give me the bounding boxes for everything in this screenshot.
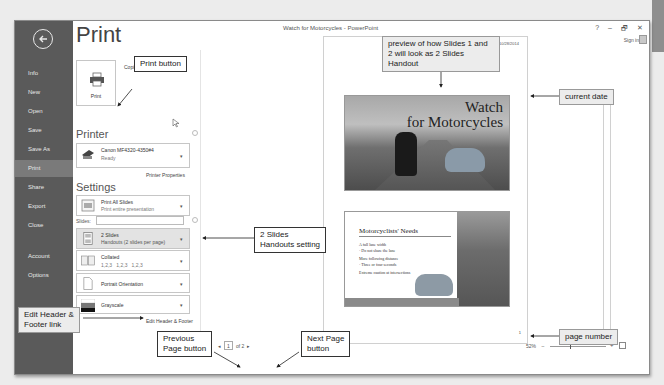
color-dropdown[interactable]: Grayscale ▾ bbox=[76, 295, 190, 314]
slide-1-title: Watch for Motorcycles bbox=[407, 100, 503, 130]
layout-subtitle: Handouts (2 slides per page) bbox=[101, 239, 165, 245]
page-navigator: ◂ 1 of 2 ▸ bbox=[218, 341, 250, 350]
printer-dropdown[interactable]: Canon MF4320-4350#4 Ready ▾ bbox=[76, 143, 190, 168]
zoom-out-button[interactable]: – bbox=[541, 343, 544, 349]
window-title: Watch for Motorcycles - PowerPoint bbox=[283, 25, 378, 31]
sidebar-item-open[interactable]: Open bbox=[15, 103, 73, 120]
avatar[interactable] bbox=[639, 35, 647, 44]
next-page-button[interactable]: ▸ bbox=[247, 343, 250, 349]
callout-line: Page button bbox=[163, 344, 206, 354]
minimize-icon[interactable]: – bbox=[608, 24, 612, 35]
print-range-title: Print All Slides bbox=[101, 199, 133, 205]
callout-line: 2 Slides bbox=[260, 230, 320, 240]
layout-title: 2 Slides bbox=[101, 232, 119, 238]
print-button-label: Print bbox=[77, 93, 115, 99]
callout-line: Next Page bbox=[307, 334, 344, 344]
current-page-input[interactable]: 1 bbox=[224, 341, 233, 350]
slide-2-bullet: · Three or four seconds bbox=[359, 262, 396, 267]
printer-heading: Printer bbox=[76, 128, 108, 140]
sidebar-item-save[interactable]: Save bbox=[15, 122, 73, 139]
slide-2-bullet: More following distance bbox=[359, 256, 398, 261]
sidebar-item-info[interactable]: Info bbox=[15, 65, 73, 82]
slide-1-title-line-1: Watch bbox=[407, 100, 503, 115]
portrait-page-icon bbox=[83, 277, 93, 290]
zoom-to-page-icon[interactable] bbox=[619, 342, 626, 349]
zoom-percent[interactable]: 52% bbox=[526, 343, 536, 349]
cartoon-car-image bbox=[415, 274, 453, 296]
slides-icon bbox=[81, 199, 95, 212]
sidebar-item-export[interactable]: Export bbox=[15, 198, 73, 215]
edit-header-callout: Edit Header & Footer link bbox=[18, 307, 80, 333]
sidebar-item-new[interactable]: New bbox=[15, 84, 73, 101]
info-icon[interactable] bbox=[192, 130, 198, 136]
callout-line: Previous bbox=[163, 334, 206, 344]
collated-icon bbox=[81, 255, 95, 268]
chevron-down-icon: ▾ bbox=[180, 258, 183, 264]
sidebar-item-close[interactable]: Close bbox=[15, 217, 73, 234]
callout-line: Footer link bbox=[24, 320, 74, 330]
help-icon[interactable]: ? bbox=[595, 24, 599, 35]
sidebar-item-options[interactable]: Options bbox=[15, 267, 73, 284]
preview-callout: preview of how Slides 1 and 2 will look … bbox=[382, 36, 500, 72]
page-count-label: of 2 bbox=[236, 343, 244, 349]
color-label: Grayscale bbox=[101, 302, 124, 308]
cartoon-car-image bbox=[445, 148, 485, 172]
panel-divider bbox=[200, 50, 201, 350]
handout-layout-dropdown[interactable]: 2 Slides Handouts (2 slides per page) ▾ bbox=[76, 228, 190, 249]
slide-footer-bar bbox=[345, 298, 459, 306]
print-range-dropdown[interactable]: Print All Slides Print entire presentati… bbox=[76, 195, 190, 216]
sidebar-item-share[interactable]: Share bbox=[15, 179, 73, 196]
slides-label: Slides: bbox=[76, 218, 91, 224]
page-number-callout: page number bbox=[559, 329, 618, 345]
sidebar-item-account[interactable]: Account bbox=[15, 248, 73, 265]
preview-date: 10/28/2014 bbox=[499, 41, 519, 46]
print-button[interactable]: Print bbox=[76, 60, 116, 106]
info-icon[interactable] bbox=[192, 217, 198, 223]
slide-2-bullet: A full lane width bbox=[359, 242, 386, 247]
sidebar-item-save-as[interactable]: Save As bbox=[15, 141, 73, 158]
print-button-callout: Print button bbox=[134, 56, 187, 72]
preview-page-number: 1 bbox=[519, 330, 521, 335]
collation-title: Collated bbox=[101, 254, 119, 260]
collation-dropdown[interactable]: Collated 1,2,3 1,2,3 1,2,3 ▾ bbox=[76, 250, 190, 271]
chevron-down-icon: ▾ bbox=[180, 203, 183, 209]
slide-2-bullet: · Do not share the lane bbox=[359, 248, 395, 253]
slide-2-thumbnail: Motorcyclists' Needs A full lane width ·… bbox=[344, 211, 510, 307]
zoom-level[interactable]: 52% – bbox=[526, 343, 544, 349]
grayscale-icon bbox=[81, 299, 95, 312]
chevron-down-icon: ▾ bbox=[180, 302, 183, 308]
orientation-dropdown[interactable]: Portrait Orientation ▾ bbox=[76, 273, 190, 293]
window-controls: ? – 🗗 ✕ bbox=[595, 24, 643, 35]
printer-icon bbox=[89, 71, 105, 87]
slide-2-bullet: Extreme caution at intersections bbox=[359, 270, 410, 275]
handouts-setting-callout: 2 Slides Handouts setting bbox=[254, 227, 326, 253]
close-icon[interactable]: ✕ bbox=[637, 24, 643, 35]
slide-2-title: Motorcyclists' Needs bbox=[359, 227, 451, 237]
preview-scrollbar[interactable]: ▴ ▾ bbox=[603, 92, 611, 342]
sidebar-item-print[interactable]: Print bbox=[15, 160, 73, 177]
edit-header-footer-link[interactable]: Edit Header & Footer bbox=[146, 318, 193, 324]
mouse-cursor-icon bbox=[172, 118, 180, 128]
previous-page-callout: Previous Page button bbox=[157, 331, 212, 357]
page-title: Print bbox=[76, 22, 121, 48]
sign-in-link[interactable]: Sign in bbox=[624, 37, 639, 43]
orientation-label: Portrait Orientation bbox=[101, 281, 143, 287]
chevron-down-icon: ▾ bbox=[180, 236, 183, 242]
printer-device-icon bbox=[81, 147, 95, 160]
print-preview-page: 10/28/2014 Watch for Motorcycles Motorcy… bbox=[323, 36, 528, 344]
title-bar: Watch for Motorcycles - PowerPoint ? – 🗗… bbox=[73, 21, 649, 37]
callout-line: Edit Header & bbox=[24, 310, 74, 320]
motorcycle-rider-image bbox=[395, 132, 417, 176]
printer-properties-link[interactable]: Printer Properties bbox=[146, 172, 185, 178]
slides-input[interactable] bbox=[96, 216, 184, 225]
print-range-subtitle: Print entire presentation bbox=[101, 206, 154, 212]
previous-page-button[interactable]: ◂ bbox=[218, 343, 221, 349]
slide-1-thumbnail: Watch for Motorcycles bbox=[344, 95, 510, 191]
callout-line: button bbox=[307, 344, 344, 354]
back-button[interactable] bbox=[33, 29, 53, 49]
zoom-slider[interactable] bbox=[550, 346, 606, 347]
two-slides-handout-icon bbox=[83, 232, 93, 245]
restore-icon[interactable]: 🗗 bbox=[621, 24, 628, 35]
screenshot-page: Info New Open Save Save As Print Share E… bbox=[0, 0, 664, 385]
settings-heading: Settings bbox=[76, 181, 116, 193]
